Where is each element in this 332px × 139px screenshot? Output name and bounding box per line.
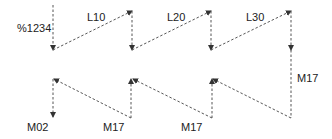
edge-return-2 [133,79,212,118]
label-l20: L20 [167,11,185,23]
label-l10: L10 [87,11,105,23]
label-m17-right: M17 [297,72,318,84]
toolpath-diagram: %1234 L10 L20 L30 M17 M02 M17 M17 [0,0,332,139]
label-m17-bottom-1: M17 [103,121,124,133]
label-end: M02 [27,121,48,133]
label-l30: L30 [246,11,264,23]
edge-return-1 [54,79,131,118]
edge-return-3 [213,79,291,118]
label-m17-bottom-2: M17 [181,121,202,133]
label-start: %1234 [17,22,51,34]
